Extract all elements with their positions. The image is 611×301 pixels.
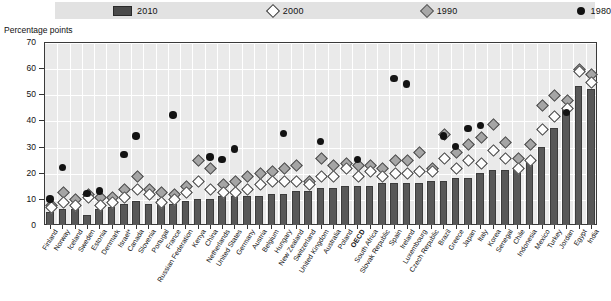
marker-1990 (524, 139, 537, 152)
y-axis-tick-label: 50 (12, 89, 36, 99)
marker-2000 (536, 123, 549, 136)
y-axis-tick-mark (39, 68, 44, 69)
marker-2000 (401, 167, 414, 180)
marker-2000 (463, 154, 476, 167)
marker-2000 (131, 183, 144, 196)
y-axis-tick-mark (39, 199, 44, 200)
marker-2000 (192, 175, 205, 188)
x-axis-labels: FinlandNorwayIcelandSwedenEstoniaDenmark… (0, 228, 609, 301)
marker-1990 (401, 154, 414, 167)
bar-finland (46, 212, 54, 225)
marker-2000 (352, 170, 365, 183)
marker-2000 (499, 152, 512, 165)
marker-1990 (487, 118, 500, 131)
bar-japan (464, 178, 472, 225)
bar-netherlands (218, 196, 226, 225)
bar-china (206, 199, 214, 225)
marker-1990 (315, 152, 328, 165)
marker-1990 (241, 170, 254, 183)
bar-egypt (575, 86, 583, 225)
y-axis-tick-label: 10 (12, 194, 36, 204)
bar-denmark (108, 207, 116, 225)
y-axis-tick-mark (39, 120, 44, 121)
bar-france (169, 204, 177, 225)
y-axis-tick-label: 70 (12, 37, 36, 47)
legend-item-2000: 2000 (268, 6, 304, 16)
legend-item-1990: 1990 (422, 6, 458, 16)
legend-item-2010: 2010 (113, 6, 158, 16)
bar-germany (243, 196, 251, 225)
y-axis-tick-mark (39, 147, 44, 148)
marker-1980 (440, 132, 448, 140)
marker-1980 (390, 75, 398, 83)
bar-chile (513, 168, 521, 226)
bar-kenya (194, 199, 202, 225)
marker-2000 (266, 175, 279, 188)
marker-1980 (464, 125, 472, 133)
bar-russian-federation (182, 201, 190, 225)
bar-south-africa (366, 186, 374, 225)
y-axis-tick-label: 20 (12, 168, 36, 178)
marker-2000 (254, 178, 267, 191)
diamond-gray-icon (420, 3, 434, 17)
marker-2000 (327, 170, 340, 183)
bar-czech-republic (427, 181, 435, 225)
marker-1990 (475, 131, 488, 144)
y-axis-title: Percentage points (4, 25, 73, 35)
bar-jordan (562, 107, 570, 225)
marker-1980 (280, 130, 288, 138)
bar-new-zealand (292, 191, 300, 225)
bar-ireland (403, 183, 411, 225)
legend-label-2010: 2010 (137, 6, 158, 16)
bar-israel- (120, 204, 128, 225)
marker-2000 (241, 183, 254, 196)
bar-oecd (354, 186, 362, 225)
y-axis-tick-label: 60 (12, 63, 36, 73)
bar-poland (341, 186, 349, 225)
marker-1990 (499, 136, 512, 149)
marker-1980 (206, 153, 214, 161)
marker-2000 (475, 157, 488, 170)
marker-1980 (120, 151, 128, 159)
y-axis-tick-label: 40 (12, 115, 36, 125)
legend-label-1990: 1990 (437, 6, 458, 16)
marker-1980 (218, 156, 226, 164)
marker-2000 (549, 110, 562, 123)
marker-1990 (192, 154, 205, 167)
legend-item-1980: 1980 (577, 6, 611, 16)
bar-slovenia (145, 204, 153, 225)
marker-2000 (438, 152, 451, 165)
bar-senegal (501, 170, 509, 225)
bar-italy (476, 173, 484, 225)
bar-slovak-republic (378, 183, 386, 225)
bar-brazil (440, 181, 448, 225)
marker-1980 (477, 122, 485, 130)
marker-2000 (377, 170, 390, 183)
bar-spain (390, 183, 398, 225)
bar-turkey (550, 128, 558, 225)
x-axis-label-india: India (586, 228, 600, 245)
marker-2000 (315, 170, 328, 183)
y-axis-tick-mark (39, 94, 44, 95)
bar-india (587, 89, 595, 225)
marker-1990 (536, 99, 549, 112)
bar-mexico (538, 147, 546, 225)
marker-2000 (205, 183, 218, 196)
data-series-layer (44, 42, 597, 225)
marker-1980 (83, 190, 91, 198)
marker-1990 (291, 159, 304, 172)
legend-label-1980: 1980 (590, 6, 611, 16)
y-axis-tick-label: 30 (12, 142, 36, 152)
bar-belgium (268, 194, 276, 225)
circle-filled-icon (577, 7, 585, 15)
marker-1980 (317, 138, 325, 146)
marker-2000 (291, 175, 304, 188)
marker-1990 (278, 162, 291, 175)
bar-sweden (83, 215, 91, 225)
marker-2000 (389, 167, 402, 180)
marker-1980 (59, 164, 67, 172)
marker-2000 (413, 165, 426, 178)
marker-1980 (96, 187, 104, 195)
marker-1990 (549, 89, 562, 102)
bar-hungary (280, 194, 288, 225)
